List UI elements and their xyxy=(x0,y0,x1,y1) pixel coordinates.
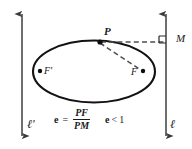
formula-denominator: PM xyxy=(73,121,90,132)
inequality-e-symbol: e xyxy=(105,114,109,125)
inequality-operator: < xyxy=(112,114,118,125)
formula-fraction: PF PM xyxy=(73,108,90,131)
label-directrix-left: ℓ' xyxy=(27,118,35,130)
label-focus-right: F xyxy=(131,67,137,77)
ellipse-directrix-figure: P M F' F ℓ' ℓ e = PF PM e < 1 xyxy=(0,0,192,149)
label-focus-left: F' xyxy=(44,66,52,76)
eccentricity-formula: e = PF PM e < 1 xyxy=(54,108,124,131)
formula-e-symbol: e xyxy=(54,114,58,125)
focus-left-marker xyxy=(38,69,42,73)
inequality-value: 1 xyxy=(119,114,124,125)
point-p-marker xyxy=(97,39,102,44)
label-point-m: M xyxy=(176,33,185,44)
focus-right-marker xyxy=(141,69,145,73)
formula-numerator: PF xyxy=(74,108,89,119)
label-point-p: P xyxy=(104,26,111,37)
label-directrix-right: ℓ xyxy=(170,118,175,130)
formula-equals-sign: = xyxy=(62,114,68,125)
eccentricity-inequality: e < 1 xyxy=(105,114,124,125)
